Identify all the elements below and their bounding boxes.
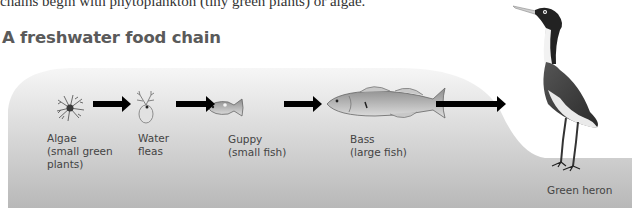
label-bass: Bass (large fish) [350,133,407,159]
label-guppy: Guppy (small fish) [228,133,286,159]
label-water-fleas: Water fleas [138,132,169,158]
label-algae: Algae (small green plants) [47,132,113,171]
heron-icon [513,6,598,171]
label-green-heron: Green heron [547,184,612,197]
food-chain-diagram [0,0,632,215]
